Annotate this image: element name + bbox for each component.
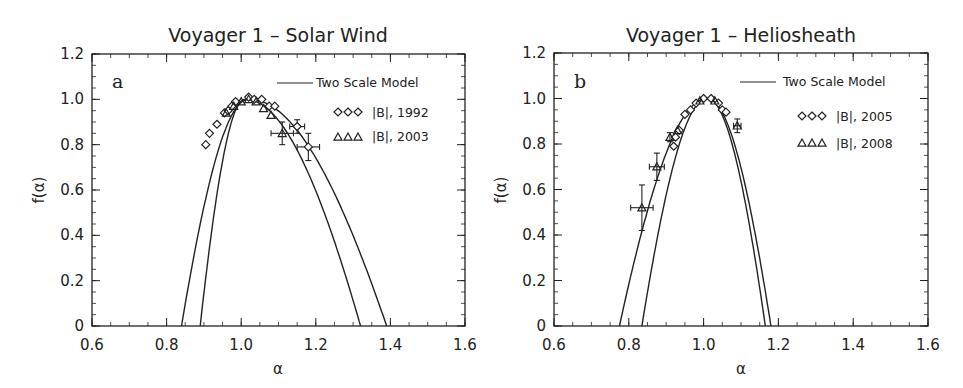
x-tick-label: 1.4 [378,336,402,354]
triangle-marker [818,139,826,146]
panel-a: Voyager 1 – Solar Wind 0.60.81.01.21.41.… [30,24,477,378]
legend-diamond-icon [334,108,362,116]
x-tick-label: 1.0 [229,336,253,354]
legend-model-label: Two Scale Model [782,74,886,89]
legend-model-label: Two Scale Model [315,75,419,90]
panel-b: Voyager 1 – Heliosheath 0.60.81.01.21.41… [492,24,940,378]
diamond-marker [213,120,221,128]
panel-a-label: a [112,70,123,92]
panel-b-xlabel: α [736,360,746,378]
y-tick-label: 0.8 [522,135,546,153]
legend-triangle-icon [334,133,362,140]
panel-b-label: b [574,70,586,92]
panel-a-ylabel: f(α) [30,177,48,204]
y-tick-label: 1.2 [522,44,546,62]
panel-b-title: Voyager 1 – Heliosheath [626,24,856,46]
legend-series2-label: |B|, 2003 [372,129,429,144]
diamond-marker [818,112,826,120]
diamond-marker [344,108,352,116]
y-tick-label: 0.4 [60,226,84,244]
diamond-marker [334,108,342,116]
x-tick-label: 0.6 [80,336,104,354]
figure: Voyager 1 – Solar Wind 0.60.81.01.21.41.… [0,0,963,388]
panel-a-title: Voyager 1 – Solar Wind [168,24,388,46]
x-tick-label: 1.6 [916,336,940,354]
triangle-marker [354,133,362,140]
diamond-marker [205,129,213,137]
diamond-marker [202,141,210,149]
model-curve [642,99,765,327]
x-tick-label: 1.2 [304,336,328,354]
legend-diamond-icon [798,112,826,120]
y-tick-label: 0 [536,317,546,335]
diamond-marker [798,112,806,120]
panel-b-frame [554,53,928,326]
x-tick-label: 1.6 [453,336,477,354]
x-tick-label: 1.2 [766,336,790,354]
x-tick-label: 0.8 [155,336,179,354]
diamond-marker [293,123,301,131]
y-tick-label: 0.6 [60,181,84,199]
y-tick-label: 1.2 [60,45,84,63]
panel-b-legend: Two Scale Model |B|, 2005 |B|, 2008 [740,74,893,151]
x-tick-label: 1.4 [841,336,865,354]
x-tick-label: 1.0 [692,336,716,354]
panel-b-ylabel: f(α) [492,177,510,204]
panel-a-frame [92,54,465,326]
legend-triangle-icon [798,139,826,146]
y-tick-label: 1.0 [60,90,84,108]
y-tick-label: 0.6 [522,181,546,199]
y-tick-label: 0.4 [522,226,546,244]
legend-series2-label: |B|, 2008 [836,136,893,151]
diamond-marker [271,102,279,110]
diamond-marker [670,142,678,150]
x-tick-label: 0.8 [617,336,641,354]
y-tick-label: 0.8 [60,136,84,154]
triangle-marker [808,139,816,146]
y-tick-label: 1.0 [522,90,546,108]
diamond-marker [808,112,816,120]
triangle-marker [334,133,342,140]
y-tick-label: 0.2 [522,272,546,290]
panel-a-xlabel: α [273,360,283,378]
y-tick-label: 0.2 [60,272,84,290]
y-tick-label: 0 [74,317,84,335]
triangle-marker [344,133,352,140]
triangle-marker [798,139,806,146]
legend-series1-label: |B|, 1992 [372,105,429,120]
legend-series1-label: |B|, 2005 [836,109,893,124]
x-tick-label: 0.6 [542,336,566,354]
diamond-marker [354,108,362,116]
